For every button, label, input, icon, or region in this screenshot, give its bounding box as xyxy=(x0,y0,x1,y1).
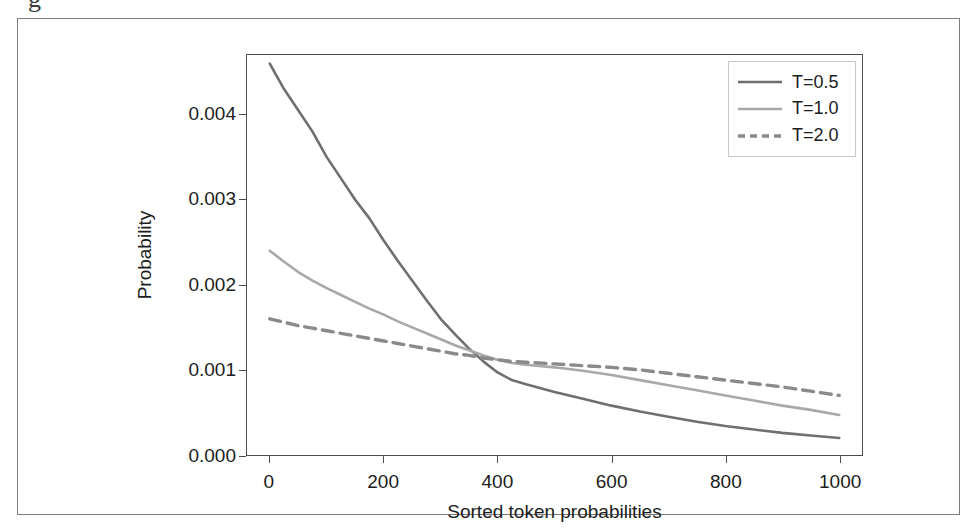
y-tick-label: 0.004 xyxy=(188,103,236,125)
y-axis-title: Probability xyxy=(134,211,156,300)
y-tick-mark xyxy=(239,456,246,457)
y-tick-label: 0.003 xyxy=(188,188,236,210)
x-tick-mark xyxy=(383,456,384,463)
legend-entry: T=0.5 xyxy=(737,69,847,95)
figure-frame: 0.0000.0010.0020.0030.004 02004006008001… xyxy=(17,18,960,515)
series-line-t10 xyxy=(270,251,839,415)
x-tick-mark xyxy=(612,456,613,463)
legend-entry: T=1.0 xyxy=(737,96,847,122)
y-tick-label: 0.000 xyxy=(188,445,236,467)
y-tick-label: 0.001 xyxy=(188,359,236,381)
x-tick-mark xyxy=(497,456,498,463)
legend-entry: T=2.0 xyxy=(737,123,847,149)
legend-line-swatch xyxy=(737,129,783,143)
series-line-t20 xyxy=(270,319,839,396)
y-tick-mark xyxy=(239,114,246,115)
x-tick-mark xyxy=(726,456,727,463)
chart-legend: T=0.5T=1.0T=2.0 xyxy=(728,61,856,157)
x-tick-label: 200 xyxy=(367,471,399,493)
y-axis-tick-labels: 0.0000.0010.0020.0030.004 xyxy=(178,19,236,532)
legend-label: T=2.0 xyxy=(792,125,839,146)
legend-label: T=1.0 xyxy=(792,98,839,119)
y-tick-mark xyxy=(239,370,246,371)
x-axis-tick-labels: 02004006008001000 xyxy=(18,471,977,501)
x-tick-label: 0 xyxy=(264,471,275,493)
x-tick-label: 800 xyxy=(710,471,742,493)
scan-artifact-glyph: g xyxy=(28,0,41,12)
legend-line-swatch xyxy=(737,102,783,116)
legend-label: T=0.5 xyxy=(792,72,839,93)
y-tick-label: 0.002 xyxy=(188,274,236,296)
x-tick-label: 600 xyxy=(596,471,628,493)
x-tick-label: 1000 xyxy=(819,471,861,493)
y-tick-mark xyxy=(239,199,246,200)
y-tick-mark xyxy=(239,285,246,286)
x-axis-title: Sorted token probabilities xyxy=(246,501,863,523)
x-tick-mark xyxy=(269,456,270,463)
x-tick-mark xyxy=(840,456,841,463)
legend-line-swatch xyxy=(737,75,783,89)
x-tick-label: 400 xyxy=(482,471,514,493)
